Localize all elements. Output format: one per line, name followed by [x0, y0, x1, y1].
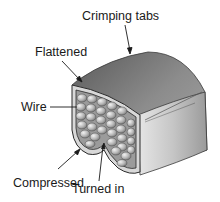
label-flattened: Flattened: [35, 46, 87, 59]
label-wire: Wire: [21, 101, 47, 114]
label-crimping-tabs: Crimping tabs: [82, 10, 159, 23]
label-turned-in: Turned in: [72, 183, 124, 196]
